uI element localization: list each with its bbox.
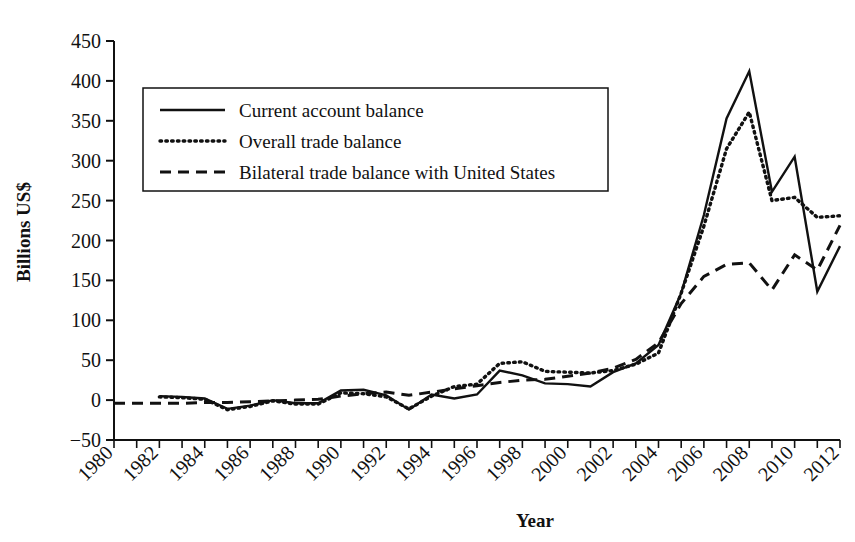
y-tick-label: 200 [71, 230, 101, 252]
x-axis-title: Year [516, 510, 555, 531]
chart-figure: −50050100150200250300350400450 198019821… [0, 0, 855, 542]
legend-label: Overall trade balance [239, 131, 401, 152]
y-axis-title: Billions US$ [13, 182, 34, 282]
y-tick-label: 300 [71, 150, 101, 172]
y-tick-label: 50 [81, 349, 101, 371]
legend-label: Current account balance [239, 100, 424, 121]
y-tick-label: 450 [71, 30, 101, 52]
legend-label: Bilateral trade balance with United Stat… [239, 162, 555, 183]
y-tick-label: 400 [71, 70, 101, 92]
chart-legend: Current account balanceOverall trade bal… [143, 88, 608, 191]
y-tick-label: 0 [91, 389, 101, 411]
line-chart: −50050100150200250300350400450 198019821… [0, 0, 855, 542]
y-tick-label: 350 [71, 110, 101, 132]
y-tick-label: 150 [71, 269, 101, 291]
y-tick-label: 100 [71, 309, 101, 331]
y-tick-label: 250 [71, 190, 101, 212]
